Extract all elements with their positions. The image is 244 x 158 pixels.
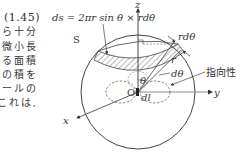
dipole-length-label: dl bbox=[141, 92, 151, 103]
origin-label: O bbox=[127, 87, 135, 98]
formula-pointer bbox=[103, 24, 107, 54]
dipole-element bbox=[136, 88, 139, 96]
r-dtheta-label: rdθ bbox=[178, 31, 195, 42]
surface-element-formula: ds = 2πr sin θ × rdθ bbox=[52, 12, 155, 23]
sphere-diagram: ds = 2πr sin θ × rdθ z y x rdθ r dθ θ O … bbox=[0, 0, 244, 158]
directivity-label: 指向性 bbox=[206, 66, 236, 78]
z-axis-label: z bbox=[134, 0, 141, 10]
x-axis-label: x bbox=[63, 115, 69, 126]
d-theta-label: dθ bbox=[171, 68, 183, 79]
sphere-label: S bbox=[73, 34, 80, 45]
y-axis-label: y bbox=[213, 87, 220, 98]
theta-label: θ bbox=[140, 75, 146, 86]
